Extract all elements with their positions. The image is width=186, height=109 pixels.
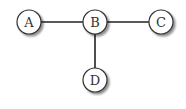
- node-d: D: [83, 68, 107, 92]
- node-b: B: [83, 10, 107, 34]
- node-a: A: [17, 10, 41, 34]
- svg-text:C: C: [156, 15, 166, 30]
- svg-text:D: D: [90, 73, 100, 88]
- svg-text:B: B: [90, 15, 100, 30]
- graph-diagram: A B C D: [0, 0, 186, 109]
- node-c: C: [149, 10, 173, 34]
- svg-text:A: A: [23, 15, 34, 30]
